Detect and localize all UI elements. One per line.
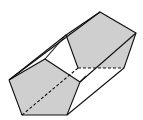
pentagonal-prism-diagram [0, 0, 143, 120]
lower-pentagon-face [9, 59, 80, 115]
upper-pentagon-face [66, 12, 136, 68]
